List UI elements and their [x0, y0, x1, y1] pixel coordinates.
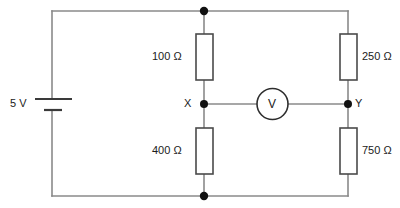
node-label-x: X	[184, 98, 191, 109]
circuit-schematic-svg	[0, 0, 400, 208]
resistor-box-250-ohm	[340, 34, 357, 80]
junction-dot-top	[200, 7, 208, 15]
resistor-label-400-ohm: 400 Ω	[152, 145, 182, 156]
resistor-label-750-ohm: 750 Ω	[362, 145, 392, 156]
voltmeter-symbol-label: V	[268, 98, 276, 110]
node-label-y: Y	[355, 98, 362, 109]
battery-voltage-label: 5 V	[10, 98, 27, 109]
resistor-label-100-ohm: 100 Ω	[152, 51, 182, 62]
resistor-box-100-ohm	[196, 34, 213, 80]
junction-dot-node-y	[344, 100, 352, 108]
junction-dot-bottom	[200, 192, 208, 200]
circuit-diagram: 5 V 100 Ω 400 Ω 250 Ω 750 Ω X Y V	[0, 0, 400, 208]
resistor-box-750-ohm	[340, 128, 357, 174]
resistor-label-250-ohm: 250 Ω	[362, 51, 392, 62]
resistor-box-400-ohm	[196, 128, 213, 174]
junction-dot-node-x	[200, 100, 208, 108]
